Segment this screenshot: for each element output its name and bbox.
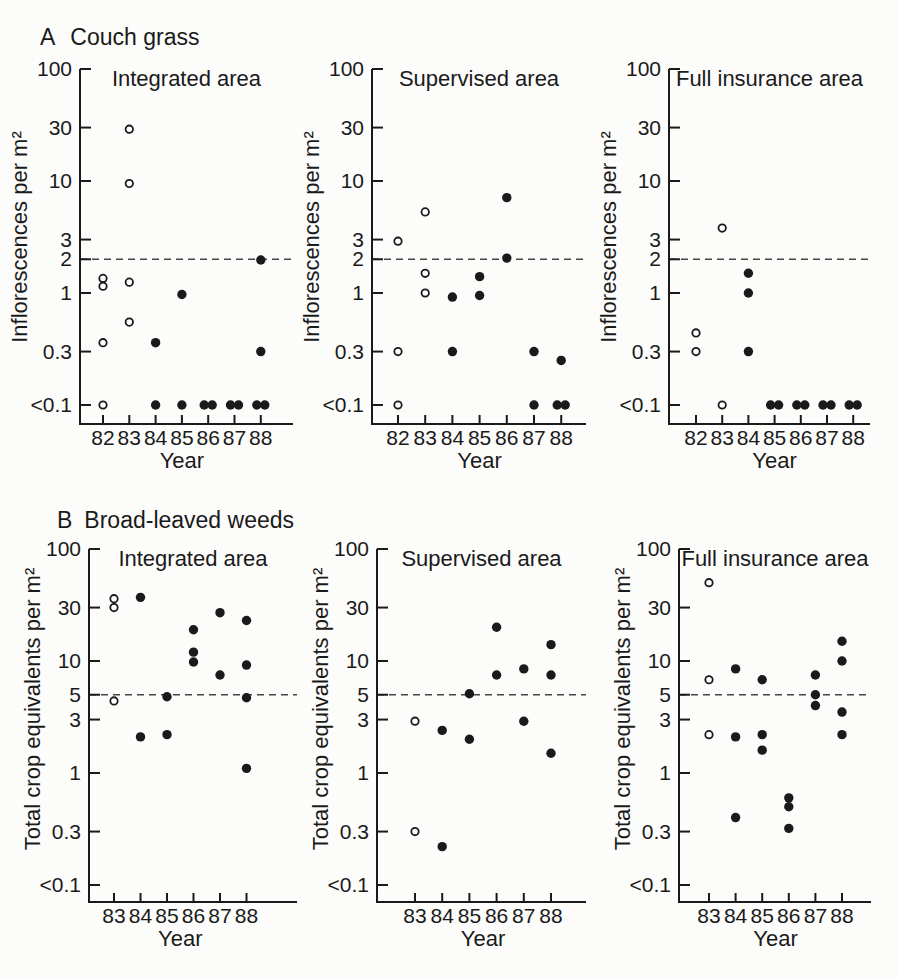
data-point-filled bbox=[837, 707, 846, 716]
data-point-filled bbox=[189, 657, 198, 666]
row-b-letter: B bbox=[57, 507, 72, 534]
y-axis-label: Inflorescences per m² bbox=[299, 131, 324, 343]
data-point-filled bbox=[189, 647, 198, 656]
data-point-filled bbox=[465, 735, 474, 744]
data-point-filled bbox=[502, 253, 511, 262]
data-point-filled bbox=[234, 400, 243, 409]
weed-density-figure: A Couch grass 10030103210.3<0.1828384858… bbox=[0, 0, 898, 978]
y-tick-label: 3 bbox=[357, 708, 369, 731]
data-point-open bbox=[394, 401, 401, 408]
y-tick-label: 2 bbox=[60, 247, 72, 270]
data-point-filled bbox=[811, 690, 820, 699]
y-tick-label: 1 bbox=[649, 281, 661, 304]
y-tick-label: 100 bbox=[636, 537, 671, 560]
row-a-title: Couch grass bbox=[70, 24, 199, 51]
y-tick-label: 10 bbox=[49, 169, 72, 192]
data-point-open bbox=[126, 126, 133, 133]
data-point-filled bbox=[561, 400, 570, 409]
data-point-filled bbox=[448, 292, 457, 301]
x-tick-label: 85 bbox=[468, 426, 491, 449]
data-point-filled bbox=[546, 749, 555, 758]
y-tick-label: 3 bbox=[69, 708, 81, 731]
y-tick-label: 0.3 bbox=[335, 340, 364, 363]
data-point-filled bbox=[226, 400, 235, 409]
data-point-open bbox=[411, 828, 418, 835]
x-tick-label: 83 bbox=[118, 426, 141, 449]
data-point-filled bbox=[151, 338, 160, 347]
data-point-filled bbox=[758, 730, 767, 739]
y-tick-label: 10 bbox=[341, 169, 364, 192]
data-point-filled bbox=[774, 400, 783, 409]
data-point-open bbox=[126, 318, 133, 325]
data-point-filled bbox=[189, 625, 198, 634]
x-axis-label: Year bbox=[160, 448, 204, 473]
data-point-filled bbox=[242, 616, 251, 625]
data-point-filled bbox=[242, 693, 251, 702]
data-point-filled bbox=[242, 764, 251, 773]
x-tick-label: 88 bbox=[842, 426, 865, 449]
y-tick-label: 0.3 bbox=[52, 820, 81, 843]
y-axis-label: Total crop equivalents per m² bbox=[610, 568, 635, 850]
y-tick-label: 100 bbox=[37, 57, 72, 80]
data-point-filled bbox=[200, 400, 209, 409]
x-tick-label: 86 bbox=[485, 904, 508, 927]
data-point-filled bbox=[208, 400, 217, 409]
x-axis-label: Year bbox=[752, 448, 796, 473]
y-axis-label: Inflorescences per m² bbox=[7, 131, 32, 343]
x-tick-label: 84 bbox=[441, 426, 465, 449]
data-point-filled bbox=[177, 290, 186, 299]
x-tick-label: 87 bbox=[512, 904, 535, 927]
row-a-letter: A bbox=[40, 24, 55, 51]
data-point-filled bbox=[136, 593, 145, 602]
x-tick-label: 88 bbox=[235, 904, 258, 927]
y-tick-label: 30 bbox=[58, 596, 81, 619]
data-point-filled bbox=[151, 400, 160, 409]
x-tick-label: 88 bbox=[539, 904, 562, 927]
y-tick-label: <0.1 bbox=[328, 873, 369, 896]
chart-panel-a-2: 10030103210.3<0.182838485868788YearInflo… bbox=[598, 0, 897, 489]
y-tick-label: 30 bbox=[341, 116, 364, 139]
data-point-filled bbox=[731, 732, 740, 741]
y-tick-label: 0.3 bbox=[43, 340, 72, 363]
data-point-filled bbox=[475, 291, 484, 300]
data-point-filled bbox=[519, 717, 528, 726]
y-tick-label: 1 bbox=[69, 761, 81, 784]
y-axis-label: Total crop equivalents per m² bbox=[20, 568, 45, 850]
row-a-header: A Couch grass bbox=[40, 24, 199, 51]
data-point-filled bbox=[529, 400, 538, 409]
panel-title: Integrated area bbox=[112, 66, 262, 91]
data-point-filled bbox=[215, 608, 224, 617]
y-tick-label: <0.1 bbox=[630, 873, 671, 896]
data-point-filled bbox=[529, 347, 538, 356]
row-b-panels: 10030105310.3<0.1838485868788YearTotal c… bbox=[0, 489, 898, 978]
x-tick-label: 84 bbox=[737, 426, 761, 449]
panel-title: Supervised area bbox=[401, 546, 562, 571]
x-tick-label: 83 bbox=[697, 904, 720, 927]
data-point-filled bbox=[811, 701, 820, 710]
data-point-filled bbox=[837, 656, 846, 665]
x-tick-label: 83 bbox=[414, 426, 437, 449]
data-point-open bbox=[705, 731, 712, 738]
data-point-open bbox=[411, 718, 418, 725]
data-point-filled bbox=[837, 637, 846, 646]
x-tick-label: 87 bbox=[223, 426, 246, 449]
x-tick-label: 84 bbox=[431, 904, 455, 927]
x-tick-label: 85 bbox=[155, 904, 178, 927]
data-point-open bbox=[422, 270, 429, 277]
data-point-open bbox=[99, 401, 106, 408]
data-point-filled bbox=[215, 670, 224, 679]
x-tick-label: 87 bbox=[815, 426, 838, 449]
x-tick-label: 88 bbox=[550, 426, 573, 449]
data-point-filled bbox=[784, 824, 793, 833]
y-axis-label: Inflorescences per m² bbox=[598, 131, 621, 343]
data-point-open bbox=[394, 348, 401, 355]
data-point-filled bbox=[758, 675, 767, 684]
data-point-open bbox=[705, 579, 712, 586]
x-tick-label: 86 bbox=[182, 904, 205, 927]
data-point-filled bbox=[731, 813, 740, 822]
data-point-filled bbox=[784, 802, 793, 811]
data-point-filled bbox=[177, 400, 186, 409]
data-point-open bbox=[99, 339, 106, 346]
y-tick-label: 30 bbox=[49, 116, 72, 139]
data-point-filled bbox=[492, 623, 501, 632]
